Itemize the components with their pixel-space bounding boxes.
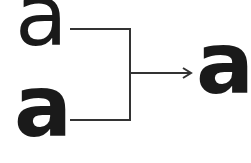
output-glyph: a	[196, 20, 251, 106]
